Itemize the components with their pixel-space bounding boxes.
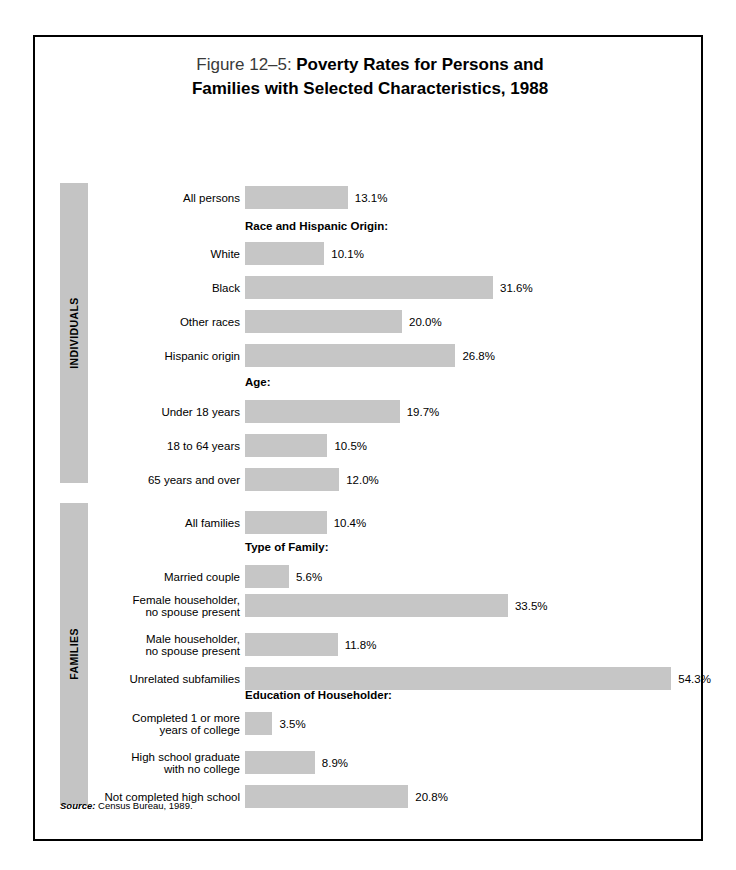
bar-row: White10.1% bbox=[35, 242, 705, 265]
bar-row-label: High school graduate with no college bbox=[0, 750, 240, 775]
bar bbox=[245, 633, 338, 656]
bar-row-bar-wrap: 10.5% bbox=[245, 434, 367, 457]
bar bbox=[245, 712, 272, 735]
bar-row-bar-wrap: 13.1% bbox=[245, 186, 387, 209]
bar-row: All persons13.1% bbox=[35, 186, 705, 209]
bar-row-label: All persons bbox=[0, 191, 240, 204]
bar-value-label: 12.0% bbox=[346, 474, 379, 486]
figure-frame: Figure 12–5: Poverty Rates for Persons a… bbox=[33, 35, 703, 841]
bar-row-bar-wrap: 33.5% bbox=[245, 594, 548, 617]
bar-row-label: White bbox=[0, 247, 240, 260]
bar-value-label: 10.1% bbox=[331, 248, 364, 260]
bar-row: High school graduate with no college8.9% bbox=[35, 751, 705, 774]
source-note: Source: Census Bureau, 1989. bbox=[60, 800, 193, 811]
bar bbox=[245, 785, 408, 808]
bar-row-label: Male householder, no spouse present bbox=[0, 632, 240, 657]
source-label: Source: bbox=[60, 800, 95, 811]
bar-row: Under 18 years19.7% bbox=[35, 400, 705, 423]
bar-row-bar-wrap: 19.7% bbox=[245, 400, 439, 423]
bar-value-label: 31.6% bbox=[500, 282, 533, 294]
bar-row-bar-wrap: 5.6% bbox=[245, 565, 322, 588]
bar-row: Married couple5.6% bbox=[35, 565, 705, 588]
bar bbox=[245, 594, 508, 617]
section-header: Type of Family: bbox=[245, 541, 329, 553]
bar-row: Other races20.0% bbox=[35, 310, 705, 333]
bar-row: Completed 1 or more years of college3.5% bbox=[35, 712, 705, 735]
bar-row-label: Female householder, no spouse present bbox=[0, 593, 240, 618]
bar bbox=[245, 751, 315, 774]
bar-value-label: 33.5% bbox=[515, 600, 548, 612]
bar-value-label: 10.4% bbox=[334, 517, 367, 529]
bar-row: Black31.6% bbox=[35, 276, 705, 299]
bar bbox=[245, 400, 400, 423]
section-header: Education of Householder: bbox=[245, 689, 392, 701]
bar-row-bar-wrap: 54.3% bbox=[245, 667, 711, 690]
bar-row-label: Black bbox=[0, 281, 240, 294]
bar-value-label: 54.3% bbox=[678, 673, 711, 685]
bar-row-bar-wrap: 11.8% bbox=[245, 633, 376, 656]
section-header: Age: bbox=[245, 376, 271, 388]
bar-value-label: 20.8% bbox=[415, 791, 448, 803]
bar bbox=[245, 434, 327, 457]
bar-row-label: Married couple bbox=[0, 570, 240, 583]
bar-value-label: 8.9% bbox=[322, 757, 348, 769]
bar-row-bar-wrap: 31.6% bbox=[245, 276, 533, 299]
bar-row-label: Unrelated subfamilies bbox=[0, 672, 240, 685]
bar-row-label: 18 to 64 years bbox=[0, 439, 240, 452]
bar-row-label: Hispanic origin bbox=[0, 349, 240, 362]
bar-row-label: Other races bbox=[0, 315, 240, 328]
bar-row-label: 65 years and over bbox=[0, 473, 240, 486]
bar-value-label: 10.5% bbox=[334, 440, 367, 452]
bar-row: All families10.4% bbox=[35, 511, 705, 534]
bar-row-bar-wrap: 12.0% bbox=[245, 468, 379, 491]
bar-row-bar-wrap: 3.5% bbox=[245, 712, 306, 735]
bar-row: Female householder, no spouse present33.… bbox=[35, 594, 705, 617]
bar-row-label: Under 18 years bbox=[0, 405, 240, 418]
bar-row: Hispanic origin26.8% bbox=[35, 344, 705, 367]
bar-row-bar-wrap: 8.9% bbox=[245, 751, 348, 774]
bar-value-label: 13.1% bbox=[355, 192, 388, 204]
bar bbox=[245, 186, 348, 209]
bar-value-label: 11.8% bbox=[345, 639, 377, 651]
bar-row-label: Completed 1 or more years of college bbox=[0, 711, 240, 736]
source-text: Census Bureau, 1989. bbox=[95, 800, 192, 811]
bar bbox=[245, 344, 455, 367]
bar-value-label: 20.0% bbox=[409, 316, 442, 328]
bar-row: 18 to 64 years10.5% bbox=[35, 434, 705, 457]
bar-value-label: 19.7% bbox=[407, 406, 440, 418]
bar-row-label: All families bbox=[0, 516, 240, 529]
bar-row: Male householder, no spouse present11.8% bbox=[35, 633, 705, 656]
bar-value-label: 26.8% bbox=[462, 350, 495, 362]
bar bbox=[245, 667, 671, 690]
bar bbox=[245, 468, 339, 491]
bar bbox=[245, 310, 402, 333]
bar-row-bar-wrap: 20.8% bbox=[245, 785, 448, 808]
bar-row-bar-wrap: 26.8% bbox=[245, 344, 495, 367]
bar-row-bar-wrap: 20.0% bbox=[245, 310, 442, 333]
bar-value-label: 5.6% bbox=[296, 571, 322, 583]
bar-value-label: 3.5% bbox=[279, 718, 305, 730]
bar-row: 65 years and over12.0% bbox=[35, 468, 705, 491]
bar bbox=[245, 276, 493, 299]
bar-chart: INDIVIDUALSFAMILIESRace and Hispanic Ori… bbox=[35, 37, 705, 843]
section-header: Race and Hispanic Origin: bbox=[245, 220, 388, 232]
bar bbox=[245, 242, 324, 265]
bar-row-bar-wrap: 10.1% bbox=[245, 242, 364, 265]
bar-row-bar-wrap: 10.4% bbox=[245, 511, 366, 534]
bar bbox=[245, 565, 289, 588]
bar bbox=[245, 511, 327, 534]
bar-row: Unrelated subfamilies54.3% bbox=[35, 667, 705, 690]
